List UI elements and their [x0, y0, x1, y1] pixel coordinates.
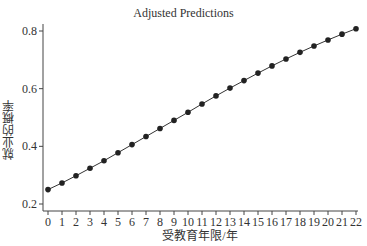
x-tick-label: 9 — [171, 215, 177, 229]
x-tick-label: 6 — [129, 215, 135, 229]
data-point-marker — [325, 37, 331, 43]
x-tick-label: 11 — [196, 215, 208, 229]
data-point-marker — [157, 126, 163, 132]
data-point-marker — [255, 70, 261, 76]
axes: 0.20.40.60.80123456789101112131415161718… — [22, 24, 362, 229]
data-point-marker — [143, 134, 149, 140]
y-tick-label: 0.2 — [22, 197, 37, 211]
data-point-marker — [227, 85, 233, 91]
data-point-marker — [45, 187, 51, 193]
data-point-marker — [115, 150, 121, 156]
x-tick-label: 21 — [336, 215, 348, 229]
x-tick-label: 13 — [224, 215, 236, 229]
data-point-marker — [297, 50, 303, 56]
data-point-marker — [213, 93, 219, 99]
x-tick-label: 15 — [252, 215, 264, 229]
line-chart: 0.20.40.60.80123456789101112131415161718… — [0, 0, 367, 246]
x-tick-label: 17 — [280, 215, 292, 229]
x-tick-label: 16 — [266, 215, 278, 229]
x-tick-label: 3 — [87, 215, 93, 229]
x-tick-label: 12 — [210, 215, 222, 229]
data-point-marker — [185, 110, 191, 116]
y-tick-label: 0.4 — [22, 139, 37, 153]
x-tick-label: 19 — [308, 215, 320, 229]
data-point-marker — [101, 158, 107, 164]
data-point-marker — [87, 165, 93, 171]
x-tick-label: 7 — [143, 215, 149, 229]
y-tick-label: 0.6 — [22, 82, 37, 96]
data-point-marker — [283, 56, 289, 62]
data-point-marker — [269, 63, 275, 69]
data-point-marker — [171, 118, 177, 124]
data-point-marker — [73, 173, 79, 179]
data-point-marker — [199, 101, 205, 107]
x-tick-label: 4 — [101, 215, 107, 229]
x-tick-label: 10 — [182, 215, 194, 229]
data-point-marker — [353, 26, 359, 32]
x-tick-label: 14 — [238, 215, 250, 229]
data-point-marker — [311, 43, 317, 49]
x-tick-label: 5 — [115, 215, 121, 229]
data-point-marker — [241, 78, 247, 84]
data-series — [45, 26, 359, 192]
data-point-marker — [59, 180, 65, 186]
x-tick-label: 1 — [59, 215, 65, 229]
x-tick-label: 8 — [157, 215, 163, 229]
series-line — [48, 29, 356, 190]
x-tick-label: 18 — [294, 215, 306, 229]
x-tick-label: 22 — [350, 215, 362, 229]
data-point-marker — [129, 142, 135, 148]
x-tick-label: 0 — [45, 215, 51, 229]
y-tick-label: 0.8 — [22, 24, 37, 38]
data-point-marker — [339, 31, 345, 37]
x-tick-label: 20 — [322, 215, 334, 229]
x-tick-label: 2 — [73, 215, 79, 229]
